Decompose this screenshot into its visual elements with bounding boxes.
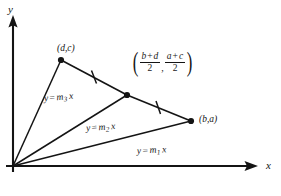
fraction-y: a+c 2 [165,52,184,74]
point-label-ba: (b,a) [199,115,217,125]
close-paren: ) [186,52,192,73]
diagram-canvas [0,0,281,196]
vertex-dot-ba [188,118,194,124]
line-equation-m2: y=m2x [86,122,116,135]
y-axis [8,15,17,172]
line-equation-m1: y=m1x [137,145,167,158]
fraction-x-numerator: b+d [140,52,160,62]
fraction-x: b+d 2 [140,52,160,74]
open-paren: ( [133,52,139,73]
x-axis [6,161,258,171]
fraction-y-numerator: a+c [165,52,184,62]
figure-caption [0,188,281,196]
midpoint-coordinate-label: ( b+d 2 , a+c 2 ) [131,52,194,74]
x-axis-label: x [266,160,271,171]
y-axis-label: y [8,4,13,15]
fraction-x-denominator: 2 [148,63,153,73]
fraction-y-denominator: 2 [173,63,178,73]
vertex-dot-midpoint [124,92,130,98]
ray-m3 [13,60,61,166]
vertex-dot-dc [58,57,64,63]
point-label-dc: (d,c) [57,44,75,54]
geometry-figure: y x (d,c) (b,a) ( b+d 2 , a+c 2 ) y=m3x … [0,0,281,196]
